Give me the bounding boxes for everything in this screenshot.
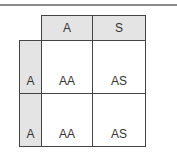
cell-r1-c2: AS [92, 40, 146, 94]
cell-r2-c2: AS [92, 93, 146, 147]
row-header-1: A [19, 40, 42, 94]
column-header-1: A [41, 15, 93, 41]
row-header-2: A [19, 93, 42, 147]
cell-r1-c1: AA [41, 40, 93, 94]
column-header-2: S [92, 15, 146, 41]
top-rule [0, 4, 177, 6]
cell-r2-c1: AA [41, 93, 93, 147]
